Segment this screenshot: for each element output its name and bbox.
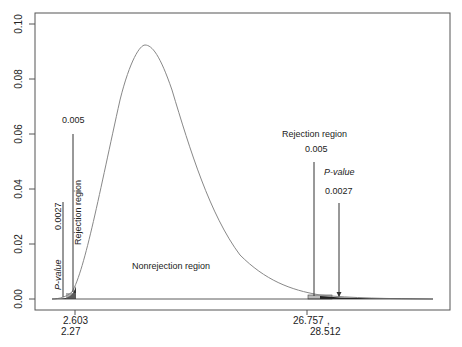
svg-text:26.757: 26.757 [293, 315, 324, 326]
chart: 0.00 0.02 0.04 0.06 0.08 0.10 2.603 2.27… [0, 0, 462, 347]
svg-text:0.04: 0.04 [13, 179, 24, 199]
svg-text:0.02: 0.02 [13, 234, 24, 254]
svg-text:,: , [327, 315, 330, 326]
svg-text:0.06: 0.06 [13, 124, 24, 144]
plot-frame [35, 13, 450, 310]
svg-text:28.512: 28.512 [310, 326, 341, 337]
y-tick-labels: 0.00 0.02 0.04 0.06 0.08 0.10 [13, 14, 24, 309]
svg-text:0.00: 0.00 [13, 289, 24, 309]
left-pvalue-label: P-value [53, 259, 63, 290]
svg-text:2.27: 2.27 [61, 326, 81, 337]
y-axis [29, 24, 35, 299]
nonrejection-label: Nonrejection region [132, 261, 210, 271]
left-pvalue-value: 0.0027 [53, 202, 63, 230]
svg-text:0.08: 0.08 [13, 69, 24, 89]
svg-text:0.10: 0.10 [13, 14, 24, 34]
right-rejection-value: 0.005 [305, 144, 328, 154]
right-pvalue-label: P-value [324, 167, 355, 177]
left-rejection-value: 0.005 [62, 115, 85, 125]
right-pvalue-value: 0.0027 [325, 186, 353, 196]
x-tick-labels: 2.603 2.27 26.757 28.512 , [61, 315, 341, 337]
right-rejection-label: Rejection region [282, 129, 347, 139]
x-axis [75, 310, 307, 315]
svg-text:2.603: 2.603 [63, 315, 88, 326]
left-rejection-label: Rejection region [73, 180, 83, 245]
density-curve [52, 45, 433, 299]
